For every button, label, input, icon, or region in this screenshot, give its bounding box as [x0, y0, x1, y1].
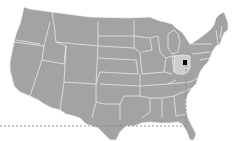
state-ohio-highlight: [174, 55, 190, 74]
us-map: United States Ohio: [0, 0, 239, 141]
map-canvas: [0, 0, 239, 141]
location-marker-icon[interactable]: [183, 60, 187, 65]
state-shape-west: [10, 7, 228, 140]
